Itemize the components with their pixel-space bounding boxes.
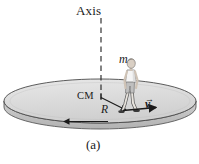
platform-top [4,79,196,123]
velocity-label: v [145,99,150,111]
center-of-mass-label: CM [77,91,94,102]
physics-figure-rotating-platform: Axis m CM R → v (a) [0,0,199,164]
mass-label: m [119,53,128,65]
axis-label: Axis [76,4,101,17]
panel-label: (a) [86,138,100,151]
radius-label: R [101,104,108,116]
